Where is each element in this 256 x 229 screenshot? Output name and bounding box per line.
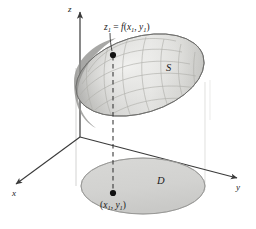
x-axis <box>16 137 80 184</box>
height-expression-label: z1 = f(x1, y1) <box>103 22 150 33</box>
surface-S <box>66 19 214 130</box>
surface-label-S: S <box>166 62 172 73</box>
figure-canvas: z x y D <box>0 0 256 229</box>
domain-label-D: D <box>156 175 165 186</box>
domain-point-label: (x1, y1) <box>100 200 126 211</box>
surface-over-domain-diagram: z x y D <box>0 0 256 229</box>
z-axis-label: z <box>67 4 72 14</box>
pt-close-paren: ) <box>123 200 126 211</box>
y-axis-label: y <box>235 182 240 192</box>
x-axis-label: x <box>11 188 16 198</box>
expr-close-paren: ) <box>147 22 150 33</box>
point-in-domain <box>110 190 116 196</box>
expr-eq: = <box>111 22 121 32</box>
point-on-surface <box>110 52 116 58</box>
